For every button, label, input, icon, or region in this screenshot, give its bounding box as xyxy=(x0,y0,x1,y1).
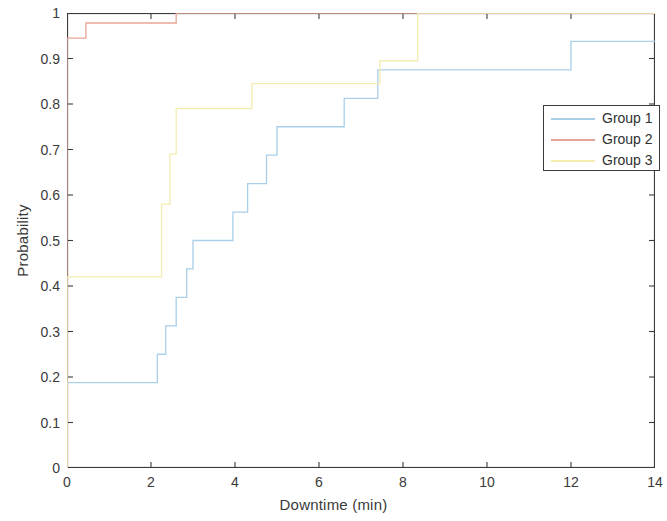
y-tick-label-9: 0.9 xyxy=(14,51,60,67)
legend-label-2: Group 2 xyxy=(602,131,653,147)
plot-frame xyxy=(68,14,655,468)
legend-entry-1[interactable]: Group 1 xyxy=(544,108,661,130)
y-axis-title: Probability xyxy=(14,171,31,311)
x-tick-label-4: 8 xyxy=(399,474,407,490)
y-tick-label-1: 0.1 xyxy=(14,415,60,431)
x-tick-label-3: 6 xyxy=(315,474,323,490)
y-tick-label-8: 0.8 xyxy=(14,96,60,112)
x-axis-title: Downtime (min) xyxy=(0,496,667,513)
legend-entry-2[interactable]: Group 2 xyxy=(544,129,661,151)
x-tick-label-7: 14 xyxy=(647,474,663,490)
series-line-group-2 xyxy=(67,13,655,468)
y-tick-label-0: 0 xyxy=(14,460,60,476)
x-tick-label-5: 10 xyxy=(479,474,495,490)
ecdf-chart-figure: 02468101214 00.10.20.30.40.50.60.70.80.9… xyxy=(0,0,667,521)
x-tick-label-1: 2 xyxy=(147,474,155,490)
y-tick-label-3: 0.3 xyxy=(14,324,60,340)
y-tick-label-7: 0.7 xyxy=(14,142,60,158)
x-tick-label-2: 4 xyxy=(231,474,239,490)
legend-entry-3[interactable]: Group 3 xyxy=(544,150,661,172)
y-tick-label-10: 1 xyxy=(14,5,60,21)
legend-box: Group 1Group 2Group 3 xyxy=(543,105,660,171)
x-tick-label-0: 0 xyxy=(63,474,71,490)
plot-svg xyxy=(67,13,655,468)
legend-swatch-2 xyxy=(551,139,595,141)
legend-label-1: Group 1 xyxy=(602,110,653,126)
legend-swatch-1 xyxy=(551,118,595,120)
x-tick-label-6: 12 xyxy=(563,474,579,490)
series-line-group-3 xyxy=(67,13,655,468)
y-tick-label-2: 0.2 xyxy=(14,369,60,385)
legend-swatch-3 xyxy=(551,160,595,162)
plot-area xyxy=(67,13,655,468)
legend-label-3: Group 3 xyxy=(602,152,653,168)
